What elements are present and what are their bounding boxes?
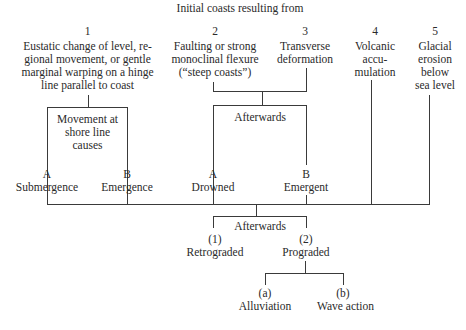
connector-line (256, 204, 257, 216)
outcome-2-number: (2) (276, 233, 336, 246)
prograded-bar (265, 273, 344, 274)
afterwards-box-top (213, 105, 307, 106)
afterwards-label-1: Afterwards (213, 111, 307, 124)
cause-4-text: Volcanic accu- mulation (345, 40, 405, 79)
sub-a-number: (a) (240, 287, 290, 300)
sub-a-label: Alluviation (230, 300, 300, 313)
outcome-2-label: Prograded (266, 246, 346, 259)
connector-line (305, 261, 306, 273)
connector-line (371, 80, 372, 204)
connector-line (265, 273, 266, 285)
branch-a2-letter: A (183, 168, 243, 181)
cause-4-number: 4 (345, 25, 405, 38)
cause-5-number: 5 (405, 25, 465, 38)
cause-5-text: Glacial erosion below sea level (405, 40, 465, 92)
movement-box-top (47, 107, 128, 108)
branch-a2-label: Drowned (183, 181, 243, 194)
cause-3-number: 3 (270, 25, 340, 38)
connector-line (343, 273, 344, 285)
movement-box-text: Movement at shore line causes (48, 113, 127, 152)
connector-line (213, 91, 307, 92)
connector-line (262, 91, 263, 105)
collector-line (47, 204, 430, 205)
afterwards-label-2: Afterwards (213, 220, 307, 233)
connector-line (429, 95, 430, 204)
diagram-title: Initial coasts resulting from (160, 2, 320, 15)
cause-1-number: 1 (10, 25, 165, 38)
branch-b1-letter: B (97, 168, 157, 181)
afterwards-2-bar (213, 216, 307, 217)
sub-b-number: (b) (318, 287, 368, 300)
outcome-1-label: Retrograded (175, 246, 255, 259)
cause-2-text: Faulting or strong monoclinal flexure (“… (160, 40, 270, 79)
branch-b1-label: Emergence (92, 181, 162, 194)
branch-a1-letter: A (17, 168, 77, 181)
outcome-1-number: (1) (185, 233, 245, 246)
cause-3-text: Transverse deformation (270, 40, 340, 66)
branch-b2-letter: B (276, 168, 336, 181)
cause-2-number: 2 (170, 25, 260, 38)
connector-line (306, 68, 307, 92)
sub-b-label: Wave action (308, 300, 383, 313)
cause-1-text: Eustatic change of level, re- gional mov… (5, 40, 170, 92)
connector-line (88, 95, 89, 107)
branch-a1-label: Submergence (7, 181, 87, 194)
branch-b2-label: Emergent (271, 181, 341, 194)
